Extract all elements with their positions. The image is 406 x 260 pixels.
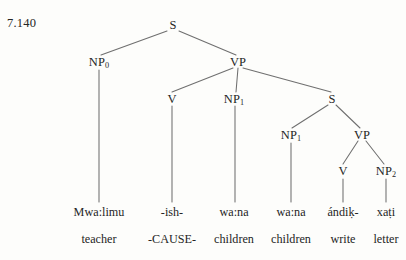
node-vp-emb: VP bbox=[354, 129, 370, 142]
stem-group bbox=[99, 70, 386, 202]
s-root-to-np0 bbox=[101, 31, 167, 55]
s-emb-to-np1-emb bbox=[292, 105, 328, 128]
node-v-emb: V bbox=[338, 165, 347, 178]
node-np1-emb: NP1 bbox=[281, 129, 301, 142]
node-subscript: 0 bbox=[105, 61, 109, 70]
tree-branch-lines bbox=[0, 0, 406, 260]
node-np1-main: NP1 bbox=[224, 93, 244, 106]
node-subscript: 1 bbox=[240, 98, 244, 107]
morpheme-2: wa:na bbox=[219, 206, 248, 218]
morpheme-0: Mwa:limu bbox=[74, 206, 125, 218]
node-np2-emb: NP2 bbox=[376, 165, 396, 178]
vp-emb-to-v-emb bbox=[343, 141, 358, 164]
node-subscript: 1 bbox=[297, 134, 301, 143]
gloss-2: children bbox=[214, 233, 254, 245]
node-vp-main: VP bbox=[230, 56, 246, 69]
gloss-5: letter bbox=[373, 233, 398, 245]
syntax-tree-figure: 7.140 SNP0VPVNP1SNP1VPVNP2 Mwa:limu-ish-… bbox=[0, 0, 406, 260]
gloss-4: write bbox=[330, 233, 355, 245]
morpheme-4: ándiḳ- bbox=[327, 206, 358, 218]
morpheme-1: -ish- bbox=[161, 206, 183, 218]
vp-emb-to-np2-emb bbox=[366, 141, 384, 164]
morpheme-5: xaṭi bbox=[377, 206, 395, 218]
vp-main-to-v bbox=[172, 68, 233, 92]
node-np0: NP0 bbox=[89, 56, 109, 69]
vp-main-to-np1 bbox=[236, 68, 238, 92]
morpheme-3: wa:na bbox=[276, 206, 305, 218]
node-v-main: V bbox=[167, 93, 176, 106]
vp-main-to-s-emb bbox=[243, 68, 331, 92]
s-root-to-vp-main bbox=[179, 31, 236, 55]
gloss-0: teacher bbox=[81, 233, 116, 245]
gloss-3: children bbox=[271, 233, 311, 245]
gloss-1: -CAUSE- bbox=[148, 233, 196, 245]
node-s-embedded: S bbox=[328, 93, 335, 106]
node-subscript: 2 bbox=[392, 170, 396, 179]
s-emb-to-vp-emb bbox=[336, 105, 360, 128]
node-s-root: S bbox=[169, 19, 176, 32]
